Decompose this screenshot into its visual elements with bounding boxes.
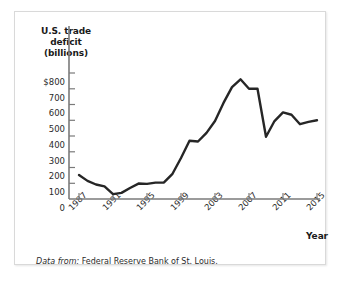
- chart-frame: U.S. trade deficit (billions) Year $800 …: [14, 11, 326, 265]
- figure-root: U.S. trade deficit (billions) Year $800 …: [0, 0, 342, 286]
- source-note-prefix: Data from:: [36, 257, 79, 266]
- y-tick-marks: [69, 73, 75, 183]
- trade-deficit-line: [79, 79, 317, 194]
- plot-area: [15, 12, 327, 266]
- source-note: Data from: Federal Reserve Bank of St. L…: [36, 257, 218, 266]
- source-note-text: Federal Reserve Bank of St. Louis.: [79, 257, 218, 266]
